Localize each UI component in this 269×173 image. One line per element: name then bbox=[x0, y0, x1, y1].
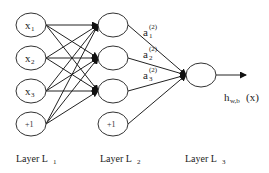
svg-text:(2): (2) bbox=[149, 23, 158, 31]
activation-labels: a 1 (2) a 2 (2) a 3 (2) bbox=[143, 23, 158, 83]
svg-text:1: 1 bbox=[149, 32, 153, 40]
svg-text:3: 3 bbox=[149, 75, 153, 83]
neural-network-diagram: x 1 x 2 x 3 +1 +1 a 1 (2) a 2 (2) a 3 (2… bbox=[0, 0, 269, 173]
edges-layer1-to-layer2 bbox=[46, 25, 98, 124]
svg-text:2: 2 bbox=[31, 58, 35, 66]
hidden-node-2 bbox=[98, 46, 128, 70]
svg-text:Layer L: Layer L bbox=[16, 153, 48, 164]
svg-text:Layer L: Layer L bbox=[100, 153, 132, 164]
edges-layer2-to-layer3 bbox=[128, 25, 186, 124]
svg-text:+1: +1 bbox=[25, 120, 34, 129]
svg-text:+1: +1 bbox=[107, 120, 116, 129]
hidden-node-1 bbox=[98, 13, 128, 37]
svg-text:Layer L: Layer L bbox=[185, 153, 217, 164]
svg-text:3: 3 bbox=[31, 91, 35, 99]
svg-text:a: a bbox=[143, 26, 148, 38]
output-label: h w,b (x) bbox=[224, 91, 259, 105]
layer1-nodes: x 1 x 2 x 3 +1 bbox=[16, 13, 46, 136]
output-node bbox=[186, 63, 216, 87]
layer-labels: Layer L 1 Layer L 2 Layer L 3 bbox=[16, 153, 226, 166]
svg-text:a: a bbox=[143, 48, 148, 60]
svg-text:2: 2 bbox=[149, 54, 153, 62]
svg-text:1: 1 bbox=[31, 25, 35, 33]
svg-text:(2): (2) bbox=[149, 66, 158, 74]
svg-text:1: 1 bbox=[53, 158, 57, 166]
svg-text:a: a bbox=[143, 69, 148, 81]
hidden-node-3 bbox=[98, 79, 128, 103]
svg-text:w,b: w,b bbox=[230, 97, 240, 105]
layer2-nodes: +1 bbox=[98, 13, 128, 136]
svg-text:(2): (2) bbox=[149, 45, 158, 53]
svg-text:2: 2 bbox=[137, 158, 141, 166]
svg-text:3: 3 bbox=[222, 158, 226, 166]
svg-text:(x): (x) bbox=[246, 91, 259, 104]
